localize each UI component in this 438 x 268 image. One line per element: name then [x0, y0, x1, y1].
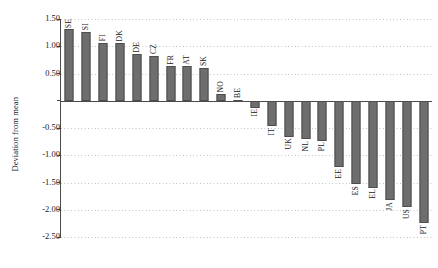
y-tick-label: -0.50 [18, 122, 60, 132]
bar-group[interactable]: AT [179, 19, 196, 237]
bar-group[interactable]: IE [247, 19, 264, 237]
bar[interactable] [116, 43, 125, 101]
bar-group[interactable]: JA [381, 19, 398, 237]
bar-group[interactable]: PT [415, 19, 432, 237]
bar-category-label: SI [82, 23, 90, 30]
bar-group[interactable]: SI [78, 19, 95, 237]
bar-group[interactable]: BE [230, 19, 247, 237]
bar-group[interactable]: SK [196, 19, 213, 237]
bar[interactable] [402, 101, 411, 207]
bar[interactable] [267, 101, 276, 127]
bar-category-label: DE [133, 42, 141, 53]
y-tick-label: -2.00 [18, 204, 60, 214]
bar-group[interactable]: NL [297, 19, 314, 237]
bar[interactable] [132, 54, 141, 100]
bar-category-label: FR [167, 55, 175, 65]
bar[interactable] [335, 101, 344, 167]
bar[interactable] [65, 29, 74, 100]
bar-group[interactable]: US [398, 19, 415, 237]
gridline [61, 237, 432, 238]
bar[interactable] [301, 101, 310, 140]
bar[interactable] [250, 101, 259, 108]
y-tick-label: -1.50 [18, 177, 60, 187]
bar-group[interactable]: IT [263, 19, 280, 237]
bar[interactable] [99, 43, 108, 101]
bar-group[interactable]: FI [95, 19, 112, 237]
deviation-bar-chart: Deviation from mean 1.501.000.50-0.50-1.… [0, 0, 438, 268]
bar-category-label: NL [302, 141, 310, 152]
bar-group[interactable]: UK [280, 19, 297, 237]
bar-category-label: EE [335, 169, 343, 179]
bar-category-label: BE [234, 88, 242, 98]
bar[interactable] [166, 66, 175, 101]
bar[interactable] [385, 101, 394, 201]
bar[interactable] [352, 101, 361, 184]
y-axis-title-text: Deviation from mean [10, 97, 20, 172]
bar-group[interactable]: DK [112, 19, 129, 237]
bar[interactable] [368, 101, 377, 188]
bar-category-label: AT [184, 55, 192, 65]
bar-series: SESIFIDKDECZFRATSKNOBEIEITUKNLPLEEESELJA… [61, 19, 432, 237]
plot-area: 1.501.000.50-0.50-1.00-1.50-2.00-2.50 SE… [61, 19, 432, 237]
bar-category-label: FI [99, 34, 107, 41]
bar-category-label: US [403, 209, 411, 219]
bar-category-label: PT [420, 225, 428, 234]
bar[interactable] [82, 32, 91, 101]
bar-category-label: PL [319, 142, 327, 151]
bar-group[interactable]: DE [128, 19, 145, 237]
bar-group[interactable]: EL [365, 19, 382, 237]
bar-category-label: NO [217, 81, 225, 92]
y-tick-label: 1.50 [18, 13, 60, 23]
bar-group[interactable]: SE [61, 19, 78, 237]
bar-category-label: ES [352, 186, 360, 195]
bar-category-label: IE [251, 109, 259, 117]
bar-category-label: SE [66, 19, 74, 28]
bar-category-label: IT [268, 128, 276, 136]
y-tick-label: 1.00 [18, 40, 60, 50]
bar-group[interactable]: FR [162, 19, 179, 237]
bar-group[interactable]: PL [314, 19, 331, 237]
bar-group[interactable]: CZ [145, 19, 162, 237]
bar[interactable] [183, 66, 192, 100]
bar-group[interactable]: ES [348, 19, 365, 237]
bar[interactable] [217, 94, 226, 101]
bar[interactable] [419, 101, 428, 224]
bar[interactable] [200, 68, 209, 101]
bar-category-label: JA [386, 202, 394, 211]
bar[interactable] [318, 101, 327, 141]
y-tick-label: -1.00 [18, 149, 60, 159]
bar[interactable] [149, 56, 158, 101]
y-tick-label: -2.50 [18, 231, 60, 241]
y-tick-label: 0.50 [18, 68, 60, 78]
bar-group[interactable]: NO [213, 19, 230, 237]
bar-category-label: EL [369, 189, 377, 199]
bar-category-label: UK [285, 138, 293, 149]
bar-category-label: CZ [150, 44, 158, 54]
bar-group[interactable]: EE [331, 19, 348, 237]
bar-category-label: DK [116, 30, 124, 41]
bar[interactable] [284, 101, 293, 137]
bar-category-label: SK [201, 56, 209, 66]
bar[interactable] [234, 100, 243, 102]
